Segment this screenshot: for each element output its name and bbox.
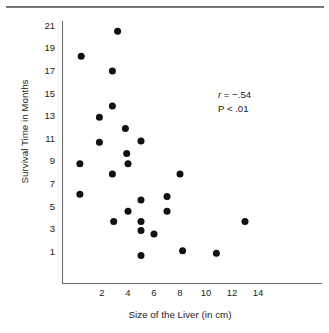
data-point bbox=[114, 28, 121, 35]
y-tick-label: 7 bbox=[33, 179, 55, 189]
x-tick-label: 4 bbox=[117, 288, 139, 298]
data-point bbox=[179, 247, 186, 254]
y-tick-label: 9 bbox=[33, 156, 55, 166]
y-tick-label: 21 bbox=[33, 21, 55, 31]
data-point bbox=[76, 160, 83, 167]
y-tick-label: 19 bbox=[33, 43, 55, 53]
data-point bbox=[96, 139, 103, 146]
scatter-plot: 21191715131197531 2468101214 Survival Ti… bbox=[0, 0, 329, 333]
data-point bbox=[242, 218, 249, 225]
x-tick-label: 10 bbox=[195, 288, 217, 298]
y-tick-label: 3 bbox=[33, 224, 55, 234]
data-point bbox=[138, 252, 145, 259]
data-point bbox=[164, 193, 171, 200]
data-point bbox=[109, 102, 116, 109]
data-point bbox=[138, 138, 145, 145]
x-tick-label: 6 bbox=[143, 288, 165, 298]
y-axis-title: Survival Time in Months bbox=[19, 62, 30, 202]
data-point bbox=[138, 227, 145, 234]
data-point bbox=[110, 218, 117, 225]
axes-lines bbox=[63, 21, 323, 284]
data-point bbox=[151, 230, 158, 237]
data-point bbox=[213, 250, 220, 257]
figure-container: 21191715131197531 2468101214 Survival Ti… bbox=[0, 0, 329, 333]
data-points-layer bbox=[76, 28, 248, 259]
y-tick-label: 5 bbox=[33, 202, 55, 212]
data-point bbox=[78, 53, 85, 60]
data-point bbox=[109, 67, 116, 74]
data-point bbox=[138, 196, 145, 203]
data-point bbox=[138, 218, 145, 225]
data-point bbox=[123, 150, 130, 157]
y-tick-label: 1 bbox=[33, 247, 55, 257]
r-value: = −.54 bbox=[221, 89, 251, 100]
x-axis-title: Size of the Liver (in cm) bbox=[60, 309, 300, 320]
y-tick-label: 15 bbox=[33, 89, 55, 99]
data-point bbox=[125, 160, 132, 167]
data-point bbox=[109, 170, 116, 177]
data-point bbox=[76, 191, 83, 198]
x-tick-label: 8 bbox=[169, 288, 191, 298]
correlation-annotation: r = −.54 bbox=[218, 88, 251, 102]
axis-lines-path bbox=[63, 21, 323, 284]
stats-annotation: r = −.54 P < .01 bbox=[218, 88, 251, 116]
y-tick-label: 17 bbox=[33, 66, 55, 76]
y-tick-label: 13 bbox=[33, 111, 55, 121]
data-point bbox=[125, 208, 132, 215]
data-point bbox=[177, 170, 184, 177]
data-point bbox=[164, 208, 171, 215]
data-point bbox=[96, 114, 103, 121]
y-tick-label: 11 bbox=[33, 134, 55, 144]
x-tick-label: 14 bbox=[247, 288, 269, 298]
x-tick-label: 2 bbox=[91, 288, 113, 298]
data-point bbox=[122, 125, 129, 132]
p-value-annotation: P < .01 bbox=[218, 102, 251, 116]
x-tick-label: 12 bbox=[221, 288, 243, 298]
